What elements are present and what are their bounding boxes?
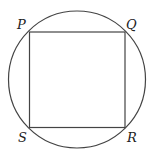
square-pqrs xyxy=(30,32,126,128)
vertex-label-q: Q xyxy=(126,17,137,32)
vertex-label-r: R xyxy=(126,130,137,145)
vertex-label-s: S xyxy=(18,130,27,145)
vertex-label-p: P xyxy=(16,17,26,32)
inscribed-square-diagram: P Q R S xyxy=(0,0,153,158)
